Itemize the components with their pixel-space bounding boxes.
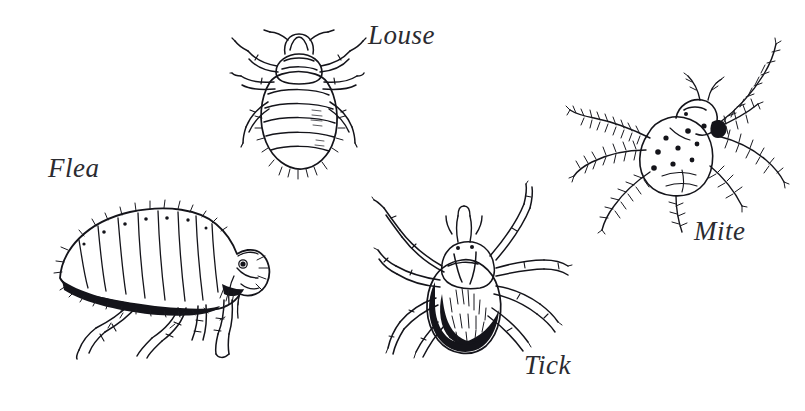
figure-louse (232, 28, 364, 176)
figure-label-tick: Tick (524, 352, 571, 379)
figure-label-louse: Louse (368, 22, 435, 49)
illustration-plate: Louse (0, 0, 805, 411)
figure-mite (566, 38, 798, 236)
figure-flea (38, 188, 280, 360)
figure-tick (372, 182, 574, 364)
figure-label-mite: Mite (694, 218, 745, 245)
figure-label-flea: Flea (48, 155, 99, 182)
